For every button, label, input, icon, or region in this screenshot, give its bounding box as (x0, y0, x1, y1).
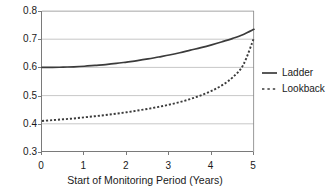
plot-canvas (42, 11, 254, 152)
y-tick-mark (38, 67, 41, 68)
x-tick-label: 5 (250, 160, 256, 171)
x-tick-label: 1 (81, 160, 87, 171)
chart-legend: LadderLookback (262, 66, 325, 98)
legend-item-ladder[interactable]: Ladder (262, 66, 325, 79)
legend-label: Ladder (282, 68, 313, 78)
x-tick-label: 0 (38, 160, 44, 171)
y-tick-mark (38, 124, 41, 125)
y-tick-mark (38, 39, 41, 40)
y-tick-label: 0.7 (13, 34, 37, 44)
x-tick-mark (126, 152, 127, 155)
chart-container: 0.30.40.50.60.70.8 012345 Start of Monit… (0, 0, 336, 196)
x-tick-label: 4 (208, 160, 214, 171)
y-tick-mark (38, 96, 41, 97)
y-tick-mark (38, 11, 41, 12)
x-axis-label: Start of Monitoring Period (Years) (0, 174, 290, 186)
x-tick-mark (211, 152, 212, 155)
y-tick-label: 0.3 (13, 147, 37, 157)
x-tick-label: 2 (123, 160, 129, 171)
legend-swatch-dotted-icon (262, 85, 277, 93)
y-tick-label: 0.6 (13, 62, 37, 72)
y-tick-label: 0.5 (13, 91, 37, 101)
x-tick-mark (83, 152, 84, 155)
x-tick-label: 3 (165, 160, 171, 171)
legend-swatch-solid-icon (262, 69, 277, 77)
x-tick-mark (168, 152, 169, 155)
plot-area (41, 11, 253, 152)
legend-label: Lookback (282, 84, 325, 94)
x-tick-mark (253, 152, 254, 155)
x-tick-mark (41, 152, 42, 155)
legend-item-lookback[interactable]: Lookback (262, 82, 325, 95)
y-tick-label: 0.8 (13, 6, 37, 16)
y-tick-label: 0.4 (13, 119, 37, 129)
series-line-ladder (42, 29, 254, 67)
series-line-lookback (42, 38, 254, 121)
